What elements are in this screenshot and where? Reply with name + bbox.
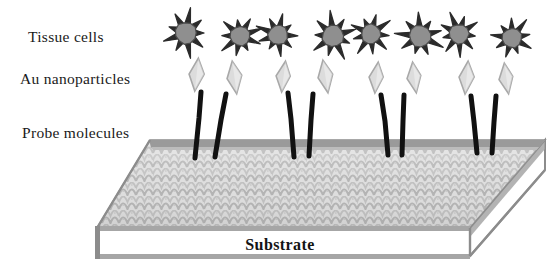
- np-1: [187, 57, 206, 92]
- au-nanoparticles-group: [187, 57, 515, 95]
- np-8: [497, 62, 514, 94]
- tissue-cell-spike: [509, 18, 514, 29]
- tissue-cell-icon: [164, 8, 204, 59]
- slab-back-edge-band: [149, 139, 546, 148]
- np-6: [406, 61, 423, 93]
- biosensor-schematic-figure: Substrate: [0, 0, 560, 280]
- tissue-cell-spike: [287, 33, 298, 38]
- au-nanoparticles-label: Au nanoparticles: [20, 70, 130, 87]
- tissue-cell-icon: [491, 18, 531, 57]
- tissue-cell-icon: [256, 14, 297, 57]
- tissue-cell-spike: [185, 8, 190, 24]
- tissue-cell-body: [268, 25, 288, 44]
- substrate-slab: Substrate: [95, 139, 546, 259]
- np-5: [367, 61, 385, 94]
- tissue-cell-icon: [222, 19, 262, 56]
- tissue-cells-group: [164, 8, 531, 59]
- np-2: [225, 60, 243, 94]
- tissue-cell-spike: [417, 12, 422, 26]
- tissue-cell-body: [322, 25, 343, 46]
- tissue-cell-spike: [457, 43, 462, 58]
- tissue-cell-icon: [351, 15, 390, 54]
- slab-back-edge-band-group: [149, 139, 546, 150]
- tissue-cell-spike: [394, 32, 410, 37]
- slab-back-edge-highlight: [151, 147, 542, 150]
- tissue-cell-icon: [314, 10, 356, 59]
- tissue-cell-icon: [394, 12, 443, 54]
- slab-front-bottom-rim: [97, 254, 470, 259]
- probe-6: [402, 95, 404, 155]
- np-7: [457, 60, 476, 95]
- np-4: [316, 59, 335, 94]
- probe-molecules-label: Probe molecules: [22, 124, 129, 141]
- np-3: [274, 60, 293, 93]
- tissue-cell-spike: [277, 43, 282, 56]
- tissue-cells-label: Tissue cells: [28, 28, 104, 45]
- tissue-cell-body: [502, 28, 521, 48]
- tissue-cell-spike: [196, 30, 204, 35]
- tissue-cell-spike: [369, 43, 374, 54]
- slab-front-left-rim: [95, 226, 100, 259]
- slab-front-top-rim: [97, 226, 470, 231]
- tissue-cell-spike: [329, 10, 334, 26]
- tissue-cell-body: [409, 25, 430, 47]
- schematic-canvas: Substrate: [0, 0, 560, 280]
- tissue-cell-icon: [441, 12, 477, 57]
- substrate-label: Substrate: [245, 236, 314, 253]
